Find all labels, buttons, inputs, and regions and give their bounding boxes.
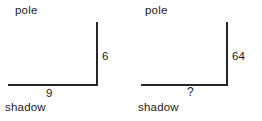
left-shadow-line xyxy=(8,84,98,86)
left-shadow-label: shadow xyxy=(5,101,46,114)
right-shadow-label: shadow xyxy=(138,101,179,114)
diagram-left: pole 6 9 shadow xyxy=(0,0,131,121)
right-pole-line xyxy=(226,22,228,86)
right-shadow-line xyxy=(141,84,228,86)
left-shadow-measure-label: 9 xyxy=(46,87,53,100)
right-shadow-unknown-label: ? xyxy=(187,86,194,99)
left-pole-line xyxy=(96,22,98,86)
diagram-right: pole 64 ? shadow xyxy=(131,0,262,121)
left-pole-measure-label: 6 xyxy=(102,50,109,63)
right-pole-label: pole xyxy=(145,4,168,17)
left-pole-label: pole xyxy=(15,4,38,17)
right-pole-measure-label: 64 xyxy=(232,50,245,63)
figure-root: pole 6 9 shadow pole 64 ? shadow xyxy=(0,0,262,121)
